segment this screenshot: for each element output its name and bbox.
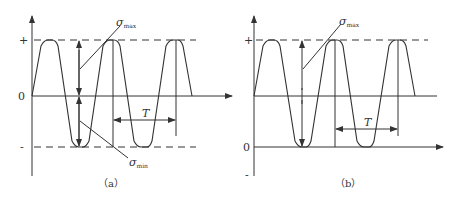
zero-tick-a: 0 xyxy=(18,90,25,103)
sigma-min-label-a: σmin xyxy=(129,156,148,169)
panel-a: + 0 - σmax σmin T （a） xyxy=(18,16,232,189)
sigma-max-label-a: σmax xyxy=(116,16,137,29)
stress-wave-a xyxy=(32,40,192,147)
period-label-a: T xyxy=(142,107,151,120)
plus-tick-a: + xyxy=(19,34,28,47)
sigma-min-leader-a xyxy=(80,121,128,158)
minus-tick-a: - xyxy=(20,141,24,154)
zero-tick-b: 0 xyxy=(243,141,250,154)
sigma-max-leader-a xyxy=(80,26,120,69)
minus-tick-b: - xyxy=(245,169,249,182)
caption-b: （b） xyxy=(335,178,361,189)
stress-cycle-diagram: + 0 - σmax σmin T （a） + 0 - σmax xyxy=(0,0,456,204)
period-label-b: T xyxy=(364,116,373,129)
plus-tick-b: + xyxy=(244,34,253,47)
caption-a: （a） xyxy=(98,178,124,189)
sigma-max-label-b: σmax xyxy=(339,15,360,28)
panel-b: + 0 - σmax T （b） xyxy=(243,15,443,189)
